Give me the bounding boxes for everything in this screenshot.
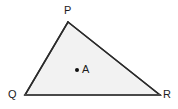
vertex-label-p: P xyxy=(64,5,71,16)
interior-point-a-dot xyxy=(75,68,79,72)
vertex-label-r: R xyxy=(163,89,171,100)
triangle-pqr-shape xyxy=(25,22,160,95)
vertex-label-q: Q xyxy=(8,89,17,100)
interior-point-label-a: A xyxy=(82,64,89,75)
triangle-diagram-canvas xyxy=(0,0,178,109)
geometry-figure: P Q R A xyxy=(0,0,178,109)
